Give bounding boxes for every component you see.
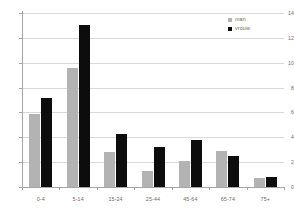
legend-swatch-vrouw-icon bbox=[228, 27, 232, 31]
x-axis-tick-label: 5-14 bbox=[73, 196, 84, 203]
x-axis-tick-label: 45-64 bbox=[183, 196, 197, 203]
bar-vrouw-0-4[interactable] bbox=[41, 98, 52, 187]
bar-group bbox=[142, 13, 165, 187]
bar-vrouw-65-74[interactable] bbox=[228, 156, 239, 187]
bar-group bbox=[216, 13, 239, 187]
x-axis-tick-label: 65-74 bbox=[221, 196, 235, 203]
bar-man-25-44[interactable] bbox=[142, 171, 153, 187]
bar-vrouw-75+[interactable] bbox=[266, 177, 277, 187]
x-axis-tick-label: 0-4 bbox=[37, 196, 45, 203]
bar-man-15-24[interactable] bbox=[104, 152, 115, 187]
bar-group bbox=[104, 13, 127, 187]
bar-group bbox=[67, 13, 90, 187]
x-axis-tick-label: 75+ bbox=[261, 196, 270, 203]
x-axis-tick-label: 25-44 bbox=[146, 196, 160, 203]
bar-man-45-64[interactable] bbox=[179, 161, 190, 187]
legend: man vrouw bbox=[228, 15, 250, 33]
x-axis-tick-mark bbox=[284, 187, 285, 190]
x-axis-tick-mark bbox=[97, 187, 98, 190]
x-axis-tick-label: 15-24 bbox=[108, 196, 122, 203]
legend-item-man[interactable]: man bbox=[228, 15, 250, 24]
bar-group bbox=[254, 13, 277, 187]
bars-layer bbox=[22, 13, 284, 187]
bar-vrouw-25-44[interactable] bbox=[154, 147, 165, 187]
bar-man-65-74[interactable] bbox=[216, 151, 227, 187]
bar-man-5-14[interactable] bbox=[67, 68, 78, 187]
bar-chart: 02468101214 0-45-1415-2425-4445-6465-747… bbox=[0, 0, 294, 218]
legend-label-man: man bbox=[235, 16, 246, 23]
legend-swatch-man-icon bbox=[228, 18, 232, 22]
bar-group bbox=[29, 13, 52, 187]
x-axis-tick-mark bbox=[209, 187, 210, 190]
x-axis-tick-mark bbox=[59, 187, 60, 190]
legend-item-vrouw[interactable]: vrouw bbox=[228, 24, 250, 33]
x-axis-tick-mark bbox=[22, 187, 23, 190]
bar-vrouw-5-14[interactable] bbox=[79, 25, 90, 187]
x-axis-tick-mark bbox=[172, 187, 173, 190]
bar-group bbox=[179, 13, 202, 187]
x-axis-tick-mark bbox=[247, 187, 248, 190]
legend-label-vrouw: vrouw bbox=[235, 25, 250, 32]
bar-vrouw-45-64[interactable] bbox=[191, 140, 202, 187]
x-axis-tick-mark bbox=[134, 187, 135, 190]
bar-man-75+[interactable] bbox=[254, 178, 265, 187]
bar-man-0-4[interactable] bbox=[29, 114, 40, 187]
grid-line bbox=[22, 187, 284, 188]
bar-vrouw-15-24[interactable] bbox=[116, 134, 127, 187]
